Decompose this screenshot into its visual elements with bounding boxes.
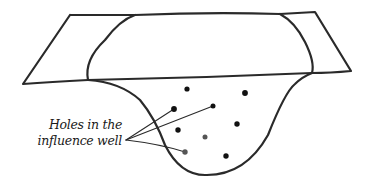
hole-dot — [175, 127, 180, 132]
hole-dot — [242, 90, 248, 96]
leader-line-2 — [126, 106, 213, 140]
hole-dot — [203, 135, 208, 140]
holes-group — [171, 86, 248, 158]
hole-dot — [234, 121, 239, 126]
holes-label: Holes in the influence well — [36, 117, 122, 149]
plane-front-edge — [88, 73, 312, 80]
influence-well-diagram — [0, 0, 370, 191]
label-line-1: Holes in the — [36, 117, 122, 133]
plane-top-edge — [135, 13, 280, 15]
label-line-2: influence well — [36, 133, 122, 149]
hole-dot — [182, 149, 187, 154]
hole-dot — [223, 153, 228, 158]
hole-dot — [171, 106, 177, 112]
rim-contour — [87, 14, 312, 80]
leader-line-3 — [126, 140, 185, 152]
hole-dot — [211, 104, 216, 109]
hole-dot — [184, 86, 189, 91]
